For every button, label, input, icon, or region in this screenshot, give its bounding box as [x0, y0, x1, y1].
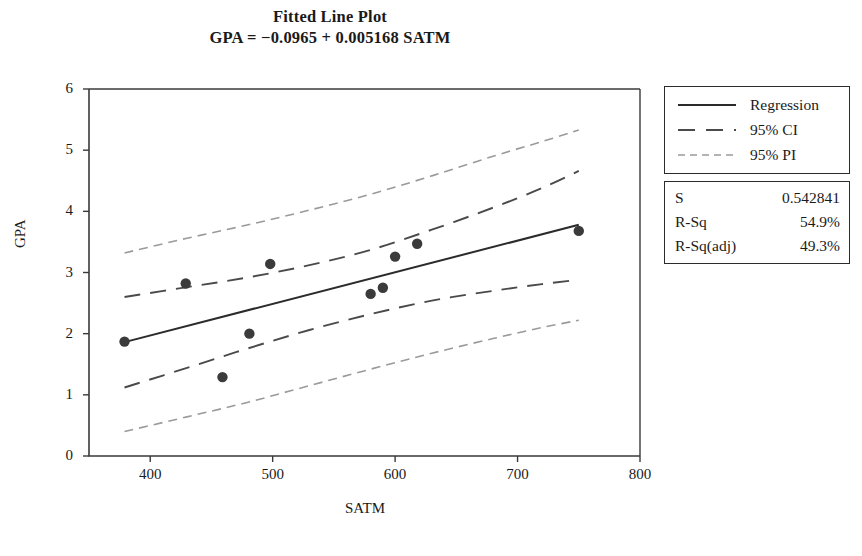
legend-label-regression: Regression [738, 96, 819, 114]
statistics-row: S0.542841 [665, 186, 849, 210]
data-point-marker [365, 289, 375, 299]
x-tick-label: 500 [246, 467, 300, 482]
statistics-box: S0.542841R-Sq54.9%R-Sq(adj)49.3% [664, 181, 850, 264]
y-tick-label: 4 [49, 203, 73, 218]
x-tick-label: 700 [491, 467, 545, 482]
x-axis-title: SATM [305, 500, 425, 517]
regression-line [125, 225, 579, 342]
statistics-value: 0.542841 [770, 189, 840, 207]
solid-line-swatch-icon [676, 98, 738, 112]
y-tick-label: 5 [49, 142, 73, 157]
data-point-marker [181, 278, 191, 288]
y-tick-label: 6 [49, 81, 73, 96]
statistics-key: S [675, 189, 770, 207]
confidence-interval-curves [125, 171, 579, 388]
dashed-line-swatch-icon [676, 123, 738, 137]
legend-label-pi: 95% PI [738, 146, 796, 164]
statistics-value: 54.9% [770, 213, 840, 231]
fitted-line-plot-figure: Fitted Line Plot GPA = −0.0965 + 0.00516… [0, 0, 862, 556]
statistics-row: R-Sq(adj)49.3% [665, 234, 849, 258]
dotted-line-swatch-icon [676, 148, 738, 162]
legend-label-ci: 95% CI [738, 121, 798, 139]
x-tick-label: 800 [613, 467, 667, 482]
data-point-marker [378, 283, 388, 293]
data-point-marker [390, 251, 400, 261]
statistics-value: 49.3% [770, 237, 840, 255]
y-tick-label: 3 [49, 265, 73, 280]
data-point-marker [265, 259, 275, 269]
data-point-markers [119, 226, 584, 383]
x-tick-label: 400 [123, 467, 177, 482]
prediction-interval-curves [125, 130, 579, 432]
y-tick-label: 2 [49, 326, 73, 341]
x-tick-label: 600 [368, 467, 422, 482]
legend-item-regression: Regression [665, 92, 849, 117]
data-point-marker [119, 336, 129, 346]
data-point-marker [574, 226, 584, 236]
legend-item-ci: 95% CI [665, 117, 849, 142]
statistics-key: R-Sq(adj) [675, 237, 770, 255]
y-tick-label: 0 [49, 448, 73, 463]
data-point-marker [244, 328, 254, 338]
data-point-marker [412, 239, 422, 249]
y-axis-title: GPA [12, 219, 29, 248]
statistics-row: R-Sq54.9% [665, 210, 849, 234]
statistics-key: R-Sq [675, 213, 770, 231]
y-tick-label: 1 [49, 387, 73, 402]
data-point-marker [217, 372, 227, 382]
legend: Regression 95% CI 95% PI [664, 86, 850, 174]
legend-item-pi: 95% PI [665, 142, 849, 167]
axis-frame [83, 89, 640, 462]
